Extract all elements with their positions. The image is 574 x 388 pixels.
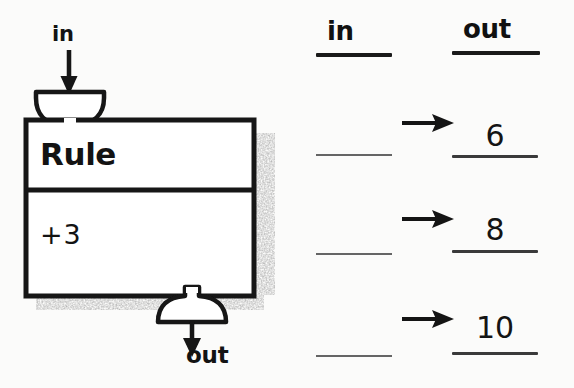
table-header-in-underline [316, 53, 392, 57]
right-arrow-icon [400, 208, 458, 230]
out-value: 10 [452, 310, 538, 345]
out-value-underline [452, 250, 538, 253]
in-blank-field[interactable] [316, 253, 392, 255]
right-arrow-icon [400, 112, 458, 134]
machine-output-label: out [186, 342, 229, 368]
funnel-neck-join [64, 118, 76, 126]
right-arrow-icon [400, 308, 458, 330]
table-header-in: in [327, 16, 354, 46]
worksheet-canvas: in Rule +3 out in out 6 [0, 0, 574, 388]
table-header-out-underline [452, 51, 540, 55]
function-machine-diagram: in Rule +3 out [0, 0, 300, 388]
machine-input-label: in [52, 22, 74, 46]
rule-expression: +3 [40, 219, 82, 250]
input-arrow-icon [61, 50, 78, 95]
out-value-underline [452, 352, 538, 355]
in-blank-field[interactable] [316, 154, 392, 156]
out-value: 8 [452, 212, 538, 247]
out-value: 6 [452, 118, 538, 153]
table-header-out: out [463, 14, 511, 44]
out-value-underline [452, 155, 538, 158]
in-out-table: in out 6 8 [300, 0, 574, 388]
rule-title: Rule [40, 136, 116, 172]
in-blank-field[interactable] [316, 355, 392, 357]
